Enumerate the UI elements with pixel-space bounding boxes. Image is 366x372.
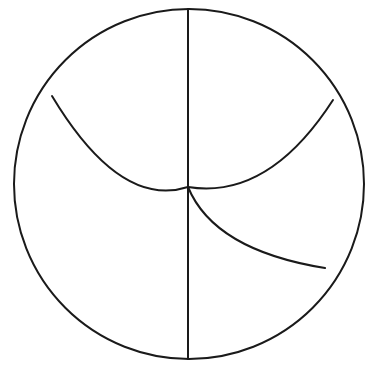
circle-partition-diagram <box>0 0 366 372</box>
background-rect <box>0 0 366 372</box>
diagram-canvas <box>0 0 366 372</box>
